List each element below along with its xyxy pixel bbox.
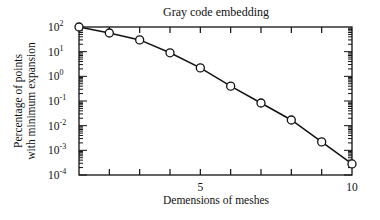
y-tick-label: 10-3 [48, 142, 66, 156]
data-point [166, 49, 174, 57]
plot-frame [79, 27, 352, 175]
y-tick-base: 10 [48, 21, 60, 33]
x-tick-label: 5 [197, 181, 203, 193]
data-point [75, 23, 83, 31]
x-axis-label: Demensions of meshes [163, 194, 270, 206]
data-point [105, 29, 113, 37]
chart-title: Gray code embedding [163, 5, 269, 19]
series-line [79, 27, 352, 164]
y-tick-exponent: 2 [60, 19, 64, 28]
y-tick-exponent: -1 [60, 93, 67, 102]
axis-ticks [79, 27, 352, 175]
data-point [318, 138, 326, 146]
y-axis-label-line-2: with minimum expansion [25, 42, 38, 160]
data-point [136, 36, 144, 44]
data-point [227, 82, 235, 90]
y-tick-base: 10 [48, 46, 60, 58]
data-point [257, 99, 265, 107]
x-tick-labels: 510 [197, 181, 358, 193]
y-tick-exponent: -4 [60, 167, 67, 176]
data-point [348, 160, 356, 168]
y-tick-exponent: -3 [60, 142, 67, 151]
series-group [75, 23, 356, 168]
y-tick-label: 102 [48, 19, 64, 33]
y-tick-exponent: -2 [60, 118, 67, 127]
data-point [196, 64, 204, 72]
y-axis-label: Percentage of points with minimum expans… [12, 42, 38, 160]
y-tick-labels: 10210110010-110-210-310-4 [48, 19, 66, 181]
y-tick-base: 10 [48, 120, 60, 132]
y-tick-base: 10 [48, 95, 60, 107]
x-tick-label: 10 [346, 181, 358, 193]
chart: Gray code embedding Percentage of points… [0, 0, 380, 220]
y-tick-base: 10 [48, 70, 60, 82]
y-tick-exponent: 1 [60, 44, 64, 53]
data-point [287, 116, 295, 124]
y-axis-label-line-1: Percentage of points [12, 54, 25, 148]
y-tick-label: 101 [48, 44, 64, 58]
y-tick-label: 10-4 [48, 167, 66, 181]
y-tick-base: 10 [48, 169, 60, 181]
y-tick-label: 10-1 [48, 93, 66, 107]
y-tick-base: 10 [48, 144, 60, 156]
y-tick-label: 10-2 [48, 118, 66, 132]
y-tick-exponent: 0 [60, 68, 64, 77]
y-tick-label: 100 [48, 68, 64, 82]
